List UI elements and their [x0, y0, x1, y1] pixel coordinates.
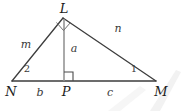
- side-label-c: c: [107, 87, 113, 98]
- segment-NL: [12, 18, 63, 81]
- angle-label-1: 1: [131, 64, 137, 74]
- vertex-label-P: P: [62, 85, 71, 98]
- side-label-n: n: [114, 23, 121, 34]
- right-angle-P-icon: [64, 72, 73, 81]
- geometry-figure: L N P M m n a b c 2 1: [0, 0, 181, 111]
- watermark-streak: [108, 70, 181, 111]
- vertex-label-L: L: [60, 2, 69, 15]
- vertex-label-N: N: [5, 85, 16, 98]
- side-label-m: m: [21, 39, 31, 50]
- angle-label-2: 2: [24, 64, 30, 74]
- side-label-a: a: [71, 43, 78, 54]
- vertex-label-M: M: [154, 85, 167, 98]
- side-label-b: b: [36, 87, 43, 98]
